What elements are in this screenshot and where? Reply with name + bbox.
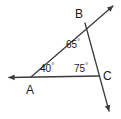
ray-B-through-C: [85, 23, 109, 111]
vertex-label-B: B: [75, 8, 83, 20]
geometry-canvas: [0, 0, 121, 119]
angle-value-B: 65: [66, 39, 77, 50]
degree-symbol-C: °: [85, 62, 88, 69]
angle-label-C: 75°: [74, 62, 88, 74]
vertex-label-A: A: [26, 84, 34, 96]
angle-value-A: 40: [40, 63, 51, 74]
angle-label-B: 65°: [66, 38, 80, 50]
geometry-figure: A B C 40° 65° 75°: [0, 0, 121, 119]
degree-symbol-A: °: [51, 62, 54, 69]
ray-horizontal-through-A: [9, 76, 99, 78]
degree-symbol-B: °: [77, 38, 80, 45]
angle-label-A: 40°: [40, 62, 54, 74]
vertex-label-C: C: [103, 70, 112, 82]
angle-value-C: 75: [74, 63, 85, 74]
